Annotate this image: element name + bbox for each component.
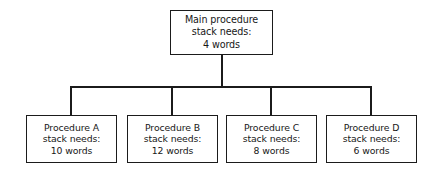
connector-root-stem	[221, 54, 223, 88]
connector-drop-procedure-d	[370, 86, 372, 116]
connector-drop-procedure-a	[70, 86, 72, 116]
node-procedure-d-stack-label: stack needs:	[343, 133, 401, 145]
node-procedure-a-stack-label: stack needs:	[43, 133, 101, 145]
node-procedure-b-stack-label: stack needs:	[144, 133, 202, 145]
node-main-procedure-words: 4 words	[203, 39, 240, 51]
node-procedure-b[interactable]: Procedure B stack needs: 12 words	[127, 115, 218, 163]
node-procedure-a-name: Procedure A	[44, 122, 99, 134]
node-main-procedure-stack-label: stack needs:	[192, 26, 252, 38]
node-main-procedure-name: Main procedure	[185, 14, 258, 26]
node-procedure-a[interactable]: Procedure A stack needs: 10 words	[26, 115, 117, 163]
node-procedure-d[interactable]: Procedure D stack needs: 6 words	[326, 115, 417, 163]
node-procedure-d-words: 6 words	[354, 145, 390, 157]
node-procedure-c[interactable]: Procedure C stack needs: 8 words	[226, 115, 317, 163]
procedure-stack-diagram: Main procedure stack needs: 4 words Proc…	[0, 0, 436, 172]
node-procedure-b-name: Procedure B	[145, 122, 200, 134]
node-procedure-c-words: 8 words	[254, 145, 290, 157]
connector-drop-procedure-b	[171, 86, 173, 116]
connector-horizontal-bus	[70, 86, 372, 88]
node-procedure-d-name: Procedure D	[344, 122, 400, 134]
node-procedure-a-words: 10 words	[51, 145, 93, 157]
node-main-procedure[interactable]: Main procedure stack needs: 4 words	[170, 10, 273, 55]
node-procedure-b-words: 12 words	[152, 145, 194, 157]
node-procedure-c-name: Procedure C	[244, 122, 299, 134]
connector-drop-procedure-c	[270, 86, 272, 116]
node-procedure-c-stack-label: stack needs:	[243, 133, 301, 145]
